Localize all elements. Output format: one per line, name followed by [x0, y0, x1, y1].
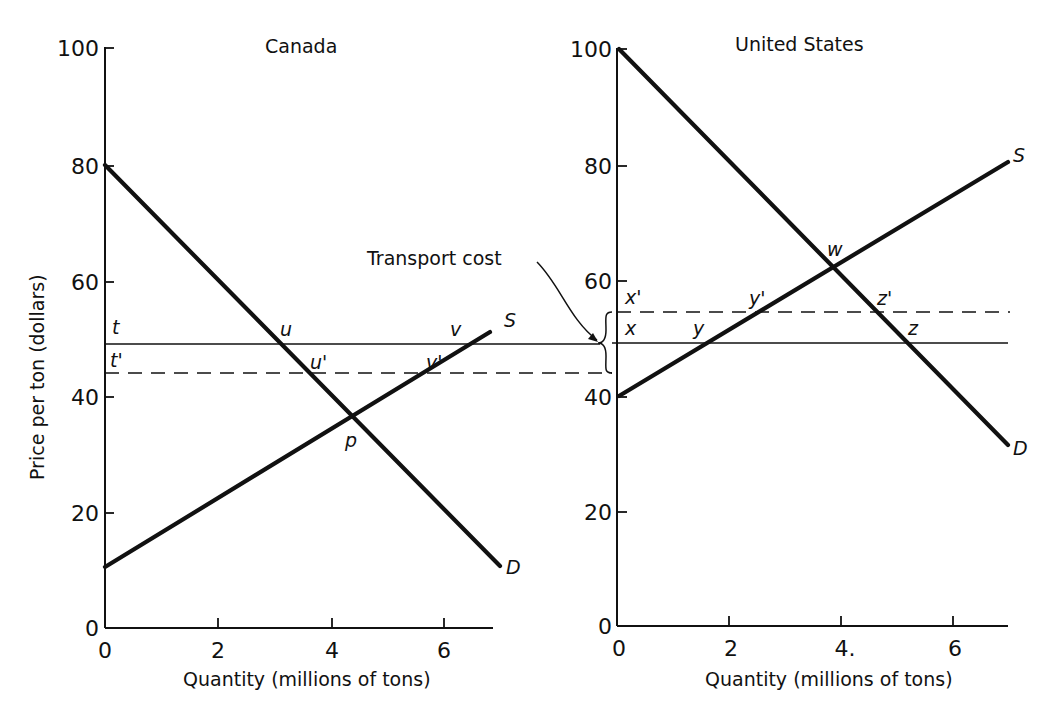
- us-x-axis-label: Quantity (millions of tons): [705, 668, 953, 690]
- point-label-t: t: [112, 316, 121, 338]
- canada-ytick-label: 40: [71, 385, 99, 410]
- us-ytick-label: 100: [570, 37, 612, 62]
- us-title: United States: [735, 33, 864, 55]
- canada-ytick-label: 20: [71, 501, 99, 526]
- canada-x-axis-label: Quantity (millions of tons): [183, 668, 431, 690]
- point-label-u: u: [280, 318, 292, 340]
- point-label-x: x: [624, 317, 637, 339]
- two-market-trade-chart: 100 80 60 40 20 0 0 2 4 6 Canada Quantit…: [0, 0, 1061, 714]
- point-label-t-prime: t': [110, 349, 123, 371]
- us-ytick-label: 60: [584, 269, 612, 294]
- canada-xtick-label: 6: [437, 638, 451, 663]
- y-axis-label: Price per ton (dollars): [26, 274, 48, 480]
- point-label-y: y: [692, 317, 705, 339]
- us-xtick-label: 6: [948, 636, 962, 661]
- canada-ytick-label: 100: [57, 36, 99, 61]
- point-label-p: p: [344, 429, 357, 451]
- canada-xtick-label: 4: [325, 638, 339, 663]
- us-ytick-label: 20: [584, 500, 612, 525]
- point-label-y-prime: y': [748, 287, 765, 309]
- us-xtick-label: 4.: [835, 636, 856, 661]
- point-label-x-prime: x': [624, 286, 641, 308]
- us-demand-curve: [619, 49, 1008, 445]
- canada-panel: 100 80 60 40 20 0 0 2 4 6 Canada Quantit…: [26, 35, 612, 690]
- point-label-w: w: [827, 238, 843, 260]
- canada-ytick-label: 80: [71, 154, 99, 179]
- transport-cost-annotation: Transport cost: [366, 247, 612, 373]
- point-label-v: v: [450, 318, 462, 340]
- us-demand-label: D: [1013, 437, 1028, 459]
- us-ytick-label: 80: [584, 154, 612, 179]
- us-xtick-label: 2: [724, 636, 738, 661]
- canada-ytick-label: 60: [71, 270, 99, 295]
- us-panel: 100 80 60 40 20 0 0 2 4. 6 United States…: [570, 33, 1028, 690]
- us-xtick-label: 0: [612, 636, 626, 661]
- us-supply-curve: [619, 162, 1008, 396]
- canada-xtick-label: 0: [98, 638, 112, 663]
- canada-title: Canada: [265, 35, 337, 57]
- canada-supply-label: S: [504, 309, 516, 331]
- point-label-v-prime: v': [426, 351, 442, 373]
- point-label-u-prime: u': [310, 351, 327, 373]
- transport-cost-label: Transport cost: [366, 247, 502, 269]
- transport-cost-brace: [598, 312, 612, 373]
- us-supply-label: S: [1013, 144, 1025, 166]
- point-label-z-prime: z': [876, 287, 892, 309]
- canada-ytick-label: 0: [85, 616, 99, 641]
- canada-demand-label: D: [506, 556, 521, 578]
- us-ytick-label: 40: [584, 385, 612, 410]
- us-ytick-label: 0: [598, 614, 612, 639]
- canada-xtick-label: 2: [211, 638, 225, 663]
- point-label-z: z: [907, 317, 919, 339]
